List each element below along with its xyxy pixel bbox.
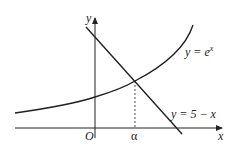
exp-label-sup: x — [209, 44, 214, 53]
exp-curve-label: y = ex — [184, 44, 214, 59]
y-axis-label: y — [85, 11, 92, 25]
exponential-curve — [15, 25, 193, 113]
exp-label-text: y = e — [184, 45, 210, 59]
line-label: y = 5 − x — [170, 107, 217, 121]
graph-diagram: y x O α y = ex y = 5 − x — [0, 0, 245, 146]
x-axis-label: x — [217, 129, 224, 143]
origin-label: O — [85, 129, 94, 143]
alpha-label: α — [131, 129, 138, 143]
line-5-minus-x — [86, 27, 182, 134]
